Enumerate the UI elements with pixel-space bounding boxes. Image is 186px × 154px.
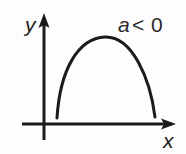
graph-canvas: y x a < 0 [0, 0, 186, 154]
y-axis-label: y [23, 13, 37, 36]
x-axis-label: x [162, 129, 175, 152]
parabola-figure: y x a < 0 [0, 0, 186, 154]
condition-relation: < [132, 13, 144, 36]
condition-value: 0 [151, 13, 163, 36]
condition-coefficient: a [118, 13, 130, 36]
parabola-curve [57, 37, 155, 118]
